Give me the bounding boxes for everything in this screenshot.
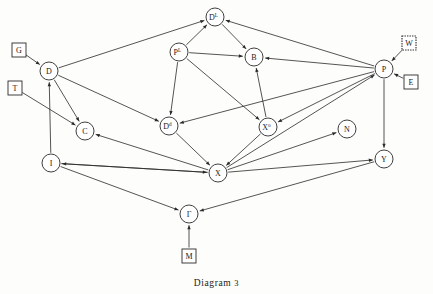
arrowhead [36, 61, 40, 65]
edge-D-to-C [54, 80, 79, 122]
edge-M-to-Gamma [187, 225, 190, 247]
edge-P-to-Y [382, 79, 385, 148]
box-M[interactable]: M [182, 249, 196, 263]
arrowhead [382, 144, 385, 148]
node-label-P: P [382, 65, 387, 74]
arrowhead [71, 122, 75, 126]
edge-X-to-Y [228, 159, 373, 173]
arrowhead [96, 134, 100, 137]
diagram-canvas: DLPLBDPCDdXoNIXYΓ GTWEM [0, 0, 433, 294]
node-label-B: B [251, 53, 256, 62]
caption-number: 3 [234, 278, 239, 288]
node-Xo[interactable]: Xo [259, 118, 277, 136]
arrowhead [174, 207, 178, 210]
box-label-M: M [185, 252, 192, 261]
node-B[interactable]: B [245, 48, 263, 66]
arrowhead [62, 162, 66, 165]
edge-PL-to-Dd [169, 62, 177, 115]
box-W[interactable]: W [402, 36, 416, 50]
arrowhead [332, 132, 336, 135]
edge-X-to-C [96, 134, 209, 170]
node-label-D: D [46, 67, 52, 76]
box-T[interactable]: T [8, 81, 22, 95]
edge-PL-to-Xo [187, 59, 260, 120]
node-P[interactable]: P [375, 60, 393, 78]
arrowhead [187, 225, 190, 229]
box-E[interactable]: E [404, 75, 418, 89]
node-label-C: C [82, 127, 87, 136]
edge-W-to-P [392, 49, 403, 61]
diagram-figure: DLPLBDPCDdXoNIXYΓ GTWEM Diagram3 [0, 0, 433, 294]
arrowhead [169, 111, 172, 115]
edge-I-to-Gamma [61, 167, 179, 211]
node-D[interactable]: D [40, 62, 58, 80]
node-N[interactable]: N [338, 120, 356, 138]
arrowhead [226, 20, 230, 23]
arrowhead [48, 82, 51, 86]
node-label-I: I [50, 159, 53, 168]
node-label-X: X [215, 169, 221, 178]
arrowhead [200, 20, 204, 23]
node-Dd[interactable]: Dd [160, 117, 178, 135]
edge-P-to-Dd [180, 72, 374, 124]
edge-Dd-to-X [176, 133, 210, 165]
node-DL[interactable]: DL [206, 8, 224, 26]
node-Y[interactable]: Y [375, 150, 393, 168]
edge-G-to-D [26, 55, 40, 65]
edge-X-to-I [62, 162, 208, 172]
edge-P-to-Xo [278, 74, 375, 122]
arrowhead [255, 68, 258, 72]
edge-DL-to-B [222, 24, 246, 49]
nodes-layer: DLPLBDPCDdXoNIXYΓ [40, 8, 393, 223]
box-G[interactable]: G [12, 43, 26, 57]
node-label-Y: Y [381, 155, 387, 164]
edge-PL-to-DL [186, 25, 207, 45]
node-label-N: N [344, 125, 350, 134]
arrowhead [200, 208, 204, 211]
edge-PL-to-B [189, 53, 243, 58]
box-label-W: W [405, 39, 413, 48]
arrowhead [239, 54, 243, 57]
boxes-layer: GTWEM [8, 36, 418, 263]
box-label-E: E [409, 78, 414, 87]
edge-E-to-P [394, 74, 403, 78]
node-PL[interactable]: PL [170, 43, 188, 61]
node-label-Gamma: Γ [187, 210, 192, 219]
box-label-T: T [13, 84, 18, 93]
edge-P-to-B [265, 57, 374, 68]
edge-Xo-to-B [255, 68, 266, 117]
node-C[interactable]: C [76, 122, 94, 140]
figure-caption: Diagram3 [0, 278, 433, 288]
edge-I-to-D [48, 82, 51, 153]
edge-T-to-C [22, 92, 75, 125]
node-X[interactable]: X [209, 164, 227, 182]
node-I[interactable]: I [42, 154, 60, 172]
caption-text: Diagram [194, 278, 231, 288]
node-Gamma[interactable]: Γ [180, 205, 198, 223]
box-label-G: G [16, 46, 22, 55]
edge-D-to-Dd [58, 75, 159, 121]
